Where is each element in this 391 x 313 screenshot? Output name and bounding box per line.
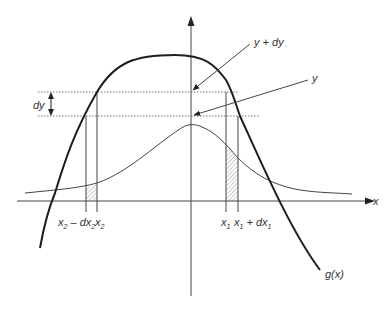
label-x2-minus-dx2: x2 – dx2 xyxy=(57,216,95,230)
dy-label: dy xyxy=(33,99,46,111)
g-of-x-curve xyxy=(40,55,320,270)
pointer-y xyxy=(194,80,308,115)
x-axis-label: x xyxy=(372,195,379,207)
label-x1-plus-dx1: x1 + dx1 xyxy=(233,216,272,230)
label-g-of-x: g(x) xyxy=(325,268,344,280)
dy-arrow-down-icon xyxy=(48,109,54,116)
label-x1: x1 xyxy=(220,216,231,230)
label-x2: x2 xyxy=(94,216,105,230)
transformation-diagram: x dy y + dy y g(x) x2 – dx2 x2 x1 x1 + d… xyxy=(0,0,391,313)
y-axis-arrow-icon xyxy=(188,16,195,26)
pointer-y-plus-dy xyxy=(193,44,250,90)
label-y: y xyxy=(311,72,319,84)
dy-arrow-up-icon xyxy=(48,92,54,99)
density-curve xyxy=(25,125,352,194)
hatched-area-left xyxy=(86,183,97,201)
hatched-area-right xyxy=(226,146,238,201)
label-y-plus-dy: y + dy xyxy=(253,36,285,48)
